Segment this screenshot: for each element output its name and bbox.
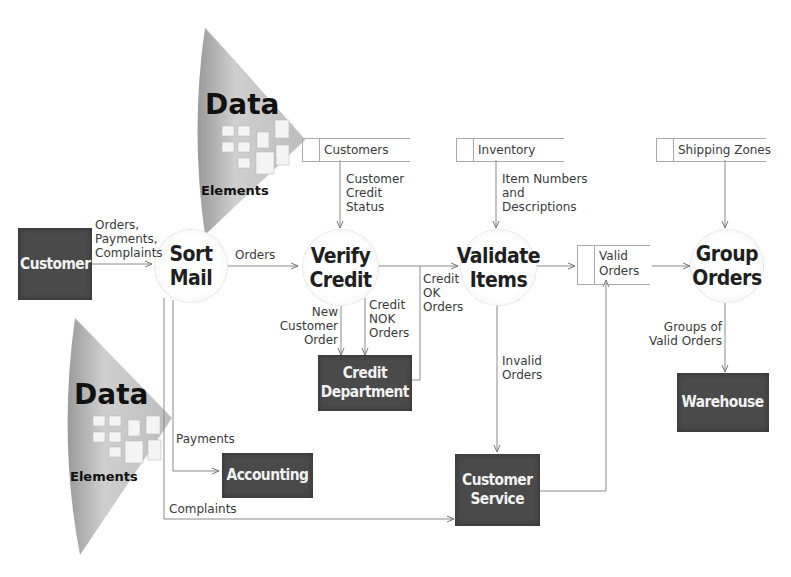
data-elements-fan-bottom bbox=[68, 318, 172, 555]
flow-label-payments: Payments bbox=[176, 432, 235, 446]
fan-bottom-title: Data bbox=[74, 378, 148, 411]
store-inventory[interactable]: Inventory bbox=[456, 138, 564, 162]
data-elements-fan-top bbox=[198, 28, 306, 235]
diagram-canvas bbox=[0, 0, 791, 577]
store-customers[interactable]: Customers bbox=[302, 138, 410, 162]
flow-label-credit-nok-orders: Credit NOK Orders bbox=[369, 298, 409, 340]
process-verify-credit[interactable]: Verify Credit bbox=[302, 229, 379, 306]
flow-label-complaints: Complaints bbox=[169, 502, 237, 516]
flow-label-invalid-orders: Invalid Orders bbox=[502, 354, 542, 382]
entity-credit-department[interactable]: Credit Department bbox=[318, 355, 412, 411]
process-group-orders[interactable]: Group Orders bbox=[690, 229, 764, 303]
process-sort-mail[interactable]: Sort Mail bbox=[154, 229, 228, 303]
flow-label-groups-of-valid-orders: Groups of Valid Orders bbox=[640, 320, 722, 348]
store-valid-orders[interactable]: Valid Orders bbox=[577, 245, 650, 285]
entity-accounting[interactable]: Accounting bbox=[222, 453, 313, 498]
flow-label-orders: Orders bbox=[235, 248, 275, 262]
fan-top-subtitle: Elements bbox=[201, 183, 269, 198]
entity-customer-service[interactable]: Customer Service bbox=[455, 454, 540, 526]
entity-warehouse[interactable]: Warehouse bbox=[677, 373, 769, 432]
flow-label-orders-payments-complaints: Orders, Payments, Complaints bbox=[95, 218, 163, 260]
store-shipping-zones[interactable]: Shipping Zones bbox=[656, 138, 766, 162]
flow-label-customer-credit-status: Customer Credit Status bbox=[346, 172, 404, 214]
fan-bottom-subtitle: Elements bbox=[70, 469, 138, 484]
flow-label-credit-ok-orders: Credit OK Orders bbox=[423, 272, 463, 314]
fan-top-title: Data bbox=[205, 88, 279, 121]
entity-customer[interactable]: Customer bbox=[18, 228, 92, 300]
flow-label-new-customer-order: New Customer Order bbox=[278, 305, 338, 347]
process-validate-items[interactable]: Validate Items bbox=[460, 229, 537, 306]
flow-label-item-numbers: Item Numbers and Descriptions bbox=[502, 172, 588, 214]
